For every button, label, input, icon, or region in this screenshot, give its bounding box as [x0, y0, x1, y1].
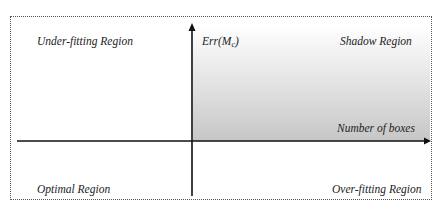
y-axis-label-main: Err(M	[202, 35, 231, 47]
y-axis-arrow-icon	[189, 23, 196, 31]
y-axis-label-close: )	[235, 35, 239, 47]
over-fitting-region-label: Over-fitting Region	[332, 183, 422, 195]
shadow-region-label: Shadow Region	[340, 35, 412, 47]
x-axis-arrow-icon	[424, 138, 431, 145]
under-fitting-region-label: Under-fitting Region	[37, 35, 133, 47]
optimal-region-label: Optimal Region	[37, 183, 110, 195]
x-axis-label: Number of boxes	[337, 122, 415, 134]
y-axis-label: Err(Mc)	[202, 35, 239, 49]
